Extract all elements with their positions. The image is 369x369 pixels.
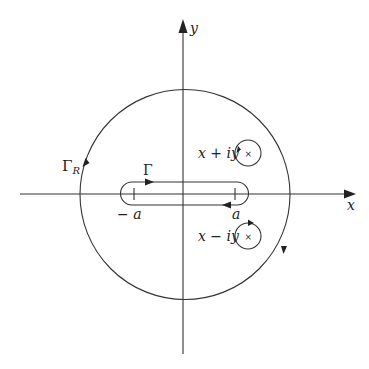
stadium-arrow-bottom-icon [222, 202, 231, 209]
a-label: a [232, 206, 240, 222]
lower-pole-arrow-icon [248, 220, 254, 227]
x-axis-label: x [347, 197, 355, 213]
big-circle-arrow-right-icon [281, 246, 287, 254]
lower-pole-cross-icon: × [245, 232, 253, 242]
stadium-arrow-top-icon [145, 179, 154, 186]
contour-diagram: x y ΓR Γ − a a × x + iy × x − iy [0, 0, 369, 369]
gamma-r-label: ΓR [62, 157, 80, 176]
big-circle-arrow-left-icon [83, 158, 90, 167]
y-axis-arrow-icon [179, 19, 188, 33]
minus-a-label: − a [117, 206, 142, 222]
gamma-label: Γ [143, 162, 153, 178]
x-axis [20, 190, 356, 199]
upper-pole-cross-icon: × [245, 149, 253, 159]
upper-pole-label: x + iy [198, 145, 240, 161]
y-axis-label: y [189, 20, 199, 36]
lower-pole-label: x − iy [198, 228, 240, 244]
y-axis [179, 19, 188, 354]
